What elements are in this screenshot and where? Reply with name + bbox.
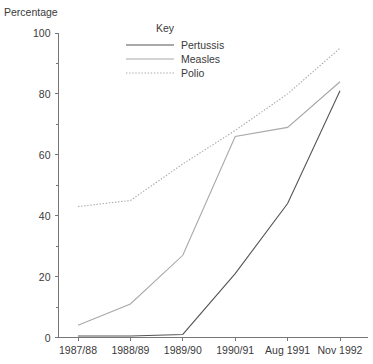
data-series-group bbox=[78, 48, 340, 336]
x-tick-label: 1988/89 bbox=[111, 344, 149, 356]
x-tick-label: Aug 1991 bbox=[265, 344, 310, 356]
series-line-polio bbox=[78, 48, 340, 206]
series-line-measles bbox=[78, 82, 340, 326]
x-tick-label: 1987/88 bbox=[59, 344, 97, 356]
y-tick-label: 80 bbox=[39, 88, 51, 100]
x-axis-tick-labels: 1987/881988/891989/901990/91Aug 1991Nov … bbox=[59, 344, 363, 356]
x-tick-label: Nov 1992 bbox=[318, 344, 363, 356]
chart-legend: Key PertussisMeaslesPolio bbox=[126, 22, 224, 79]
y-tick-label: 100 bbox=[33, 27, 51, 39]
legend-label-polio: Polio bbox=[181, 67, 205, 79]
x-axis-ticks bbox=[78, 338, 340, 342]
y-axis-ticks bbox=[55, 33, 59, 338]
y-axis-tick-labels: 100806040200 bbox=[33, 27, 51, 344]
legend-label-pertussis: Pertussis bbox=[181, 39, 224, 51]
series-line-pertussis bbox=[78, 91, 340, 336]
chart-container: Percentage 100806040200 1987/881988/8919… bbox=[0, 0, 373, 364]
y-tick-label: 40 bbox=[39, 210, 51, 222]
y-tick-label: 0 bbox=[45, 332, 51, 344]
y-tick-label: 20 bbox=[39, 271, 51, 283]
y-tick-label: 60 bbox=[39, 149, 51, 161]
line-chart: Percentage 100806040200 1987/881988/8919… bbox=[0, 0, 373, 364]
y-axis-title: Percentage bbox=[4, 6, 58, 18]
legend-entries: PertussisMeaslesPolio bbox=[126, 39, 224, 79]
x-tick-label: 1990/91 bbox=[216, 344, 254, 356]
legend-title: Key bbox=[156, 22, 175, 34]
x-tick-label: 1989/90 bbox=[164, 344, 202, 356]
legend-label-measles: Measles bbox=[181, 53, 220, 65]
